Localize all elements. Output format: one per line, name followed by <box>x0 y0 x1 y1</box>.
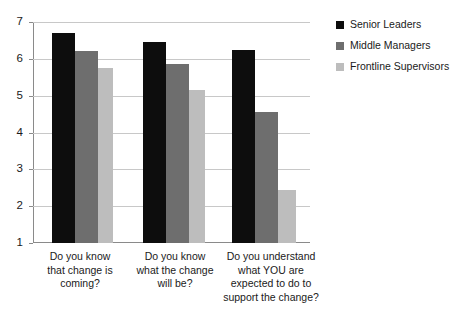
category-label-line: will be? <box>125 277 225 291</box>
bar <box>278 190 296 243</box>
legend-swatch-icon <box>336 63 344 71</box>
y-axis-tick <box>29 22 33 23</box>
bar <box>143 42 166 243</box>
bar <box>189 90 205 243</box>
bar <box>98 68 113 243</box>
category-label-line: support the change? <box>212 291 330 305</box>
y-axis-tick-label: 2 <box>17 200 23 212</box>
legend-item[interactable]: Middle Managers <box>336 35 449 56</box>
bar <box>232 50 255 243</box>
legend: Senior LeadersMiddle ManagersFrontline S… <box>336 14 449 77</box>
y-axis-tick-label: 4 <box>17 127 23 139</box>
category-label-line: that change is <box>30 264 130 278</box>
category-label-line: Do you understand <box>212 250 330 264</box>
bar <box>255 112 278 243</box>
legend-item[interactable]: Senior Leaders <box>336 14 449 35</box>
legend-item[interactable]: Frontline Supervisors <box>336 56 449 77</box>
x-axis-category-label: Do you understandwhat YOU areexpected to… <box>212 250 330 304</box>
bar <box>75 51 98 243</box>
x-axis-category-label: Do you knowwhat the changewill be? <box>125 250 225 291</box>
category-label-line: coming? <box>30 277 130 291</box>
plot-area <box>33 22 310 243</box>
y-axis-tick-label: 1 <box>17 237 23 249</box>
legend-label: Middle Managers <box>350 40 431 51</box>
category-label-line: Do you know <box>125 250 225 264</box>
category-label-line: expected to do to <box>212 277 330 291</box>
y-axis-tick-label: 3 <box>17 164 23 176</box>
legend-swatch-icon <box>336 42 344 50</box>
bar <box>52 33 75 243</box>
y-axis-tick <box>29 169 33 170</box>
y-axis-tick-label: 5 <box>17 90 23 102</box>
y-axis-tick <box>29 133 33 134</box>
legend-swatch-icon <box>336 21 344 29</box>
y-axis-tick <box>29 243 33 244</box>
x-axis-category-label: Do you knowthat change iscoming? <box>30 250 130 291</box>
category-label-line: what YOU are <box>212 264 330 278</box>
bar-chart: 1234567 Do you knowthat change iscoming?… <box>0 0 465 317</box>
y-axis-tick-label: 7 <box>17 16 23 28</box>
gridline <box>33 22 310 23</box>
bar <box>166 64 189 243</box>
y-axis-tick-label: 6 <box>17 53 23 65</box>
y-axis-tick <box>29 59 33 60</box>
legend-label: Senior Leaders <box>350 19 421 30</box>
legend-label: Frontline Supervisors <box>350 61 449 72</box>
category-label-line: Do you know <box>30 250 130 264</box>
category-label-line: what the change <box>125 264 225 278</box>
y-axis-tick <box>29 206 33 207</box>
y-axis-tick <box>29 96 33 97</box>
